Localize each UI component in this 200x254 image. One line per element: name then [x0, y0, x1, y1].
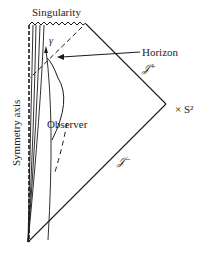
horizon-line — [30, 27, 82, 78]
scri-plus-label: 𝒥⁺ — [141, 62, 156, 75]
horizon-label: Horizon — [142, 46, 179, 58]
gamma-curve — [46, 50, 51, 240]
gamma-label: γ — [49, 35, 54, 46]
symmetry-axis-label: Symmetry axis — [10, 100, 22, 166]
gamma-arrow-icon — [44, 46, 48, 53]
sphere-label: × S² — [175, 103, 194, 115]
observer-label: Observer — [47, 118, 88, 130]
scri-minus-label: 𝒥⁻ — [116, 155, 131, 168]
horizon-pointer — [62, 52, 140, 57]
horizon-arrow-icon — [57, 54, 64, 60]
penrose-diagram: Singularity Horizon 𝒥⁺ × S² 𝒥⁻ Observer … — [0, 0, 200, 254]
singularity-line — [29, 22, 86, 25]
singularity-label: Singularity — [32, 6, 81, 18]
